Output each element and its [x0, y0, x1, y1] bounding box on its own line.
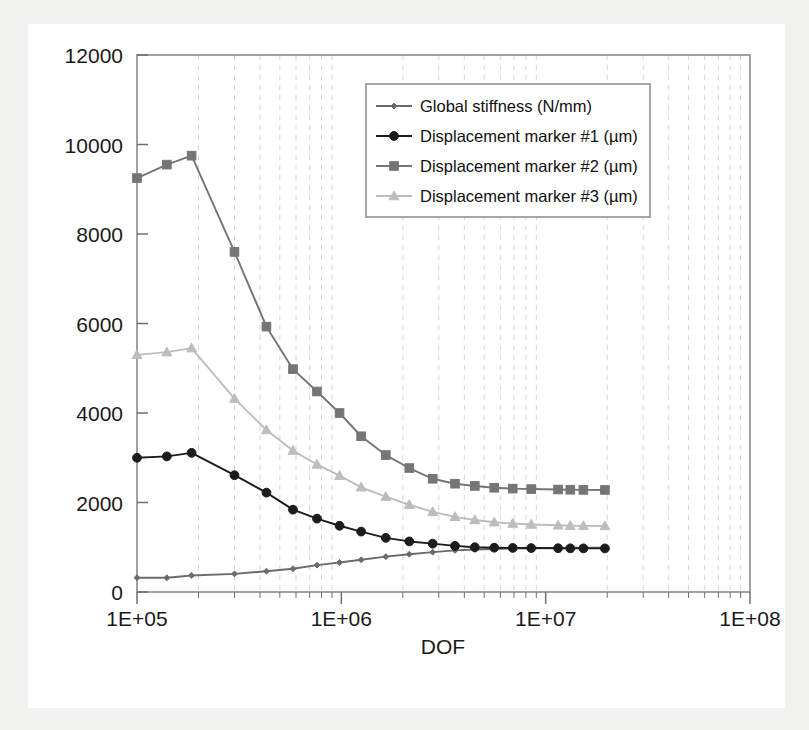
legend-label: Displacement marker #1 (µm)	[420, 127, 638, 145]
y-tick-label: 10000	[65, 134, 123, 157]
x-tick-label: 1E+07	[515, 607, 576, 630]
x-tick-label: 1E+06	[311, 607, 372, 630]
series-4	[132, 343, 610, 530]
x-tick-label: 1E+05	[106, 607, 167, 630]
legend-label: Global stiffness (N/mm)	[420, 97, 592, 115]
y-tick-label: 0	[111, 581, 123, 604]
chart-legend: Global stiffness (N/mm)Displacement mark…	[366, 84, 650, 217]
x-axis-tick-labels: 1E+051E+061E+071E+08	[106, 607, 780, 630]
y-tick-label: 6000	[76, 313, 123, 336]
y-axis-tick-labels: 020004000600080001000012000	[65, 44, 123, 604]
legend-label: Displacement marker #2 (µm)	[420, 157, 638, 175]
chart-figure: 020004000600080001000012000 1E+051E+061E…	[0, 0, 809, 730]
y-tick-label: 8000	[76, 223, 123, 246]
x-tick-label: 1E+08	[719, 607, 780, 630]
y-tick-label: 4000	[76, 402, 123, 425]
y-tick-label: 12000	[65, 44, 123, 67]
legend-label: Displacement marker #3 (µm)	[420, 187, 638, 205]
series-2	[133, 448, 610, 552]
y-tick-label: 2000	[76, 492, 123, 515]
page-background: 020004000600080001000012000 1E+051E+061E…	[0, 0, 809, 730]
x-axis-ticks	[137, 592, 750, 604]
y-axis-ticks	[137, 55, 148, 592]
x-axis-title: DOF	[421, 635, 465, 658]
